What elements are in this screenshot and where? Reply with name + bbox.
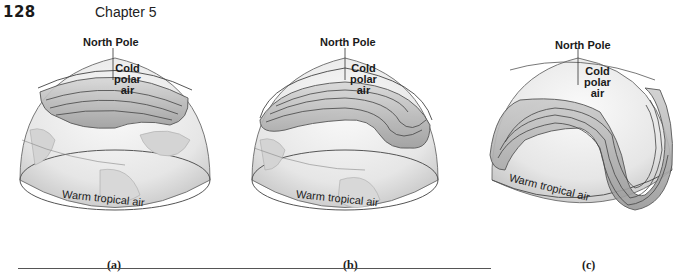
cold-label-line: air	[114, 85, 141, 96]
caption-a: (a)	[107, 258, 121, 273]
globe-panel-b: North Pole Cold polar air Warm tropical …	[230, 30, 460, 230]
globe-panel-a: North Pole Cold polar air Warm tropical …	[0, 30, 230, 230]
globe-panel-c: North Pole Cold polar air Warm tropical …	[460, 30, 690, 230]
cold-polar-air-label: Cold polar air	[114, 63, 141, 96]
cold-label-line: air	[350, 85, 377, 96]
caption-b: (b)	[343, 258, 358, 273]
north-pole-label: North Pole	[320, 37, 376, 48]
cold-polar-air-label: Cold polar air	[350, 63, 377, 96]
globe-c-illustration	[460, 30, 690, 230]
cold-polar-air-label: Cold polar air	[584, 66, 611, 99]
north-pole-label: North Pole	[83, 37, 139, 48]
caption-c: (c)	[582, 258, 595, 273]
north-pole-label: North Pole	[555, 40, 611, 51]
chapter-title: Chapter 5	[95, 4, 156, 20]
cold-label-line: air	[584, 88, 611, 99]
page-number: 128	[3, 3, 36, 21]
divider-rule	[18, 268, 491, 269]
